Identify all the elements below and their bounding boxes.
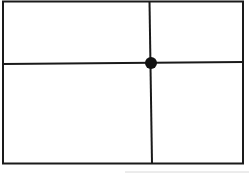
horizontal-divider xyxy=(3,62,243,64)
vertical-divider xyxy=(150,2,153,164)
outer-frame xyxy=(3,2,243,164)
intersection-dot xyxy=(145,57,157,69)
grid-diagram xyxy=(0,0,249,174)
